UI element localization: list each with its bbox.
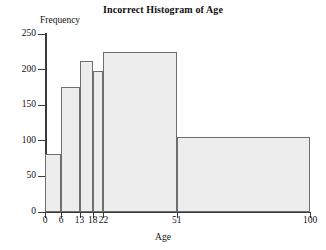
y-tick-150 <box>38 105 45 106</box>
y-tick-label-150: 150 <box>10 100 36 110</box>
y-tick-50 <box>38 176 45 177</box>
histogram-figure: Incorrect Histogram of Age Frequency 250… <box>0 0 326 250</box>
y-tick-label-0: 0 <box>10 207 36 217</box>
histogram-bar-6-13 <box>61 87 80 212</box>
y-tick-label-250: 250 <box>10 29 36 39</box>
y-tick-label-200-wrap: 200 <box>8 65 36 75</box>
y-tick-0 <box>38 212 45 213</box>
histogram-bar-18-22 <box>93 71 104 212</box>
histogram-bar-51-100 <box>177 137 310 212</box>
x-tick-label-6: 6 <box>51 215 71 225</box>
histogram-bar-0-6 <box>45 154 61 212</box>
y-tick-label-0-wrap: 0 <box>8 207 36 217</box>
y-tick-100 <box>38 140 45 141</box>
histogram-bar-13-18 <box>80 61 93 212</box>
y-tick-label-250-wrap: 250 <box>8 29 36 39</box>
y-tick-label-100: 100 <box>10 136 36 146</box>
y-tick-250 <box>38 34 45 35</box>
y-axis-title: Frequency <box>40 15 80 25</box>
x-tick-label-100: 100 <box>298 215 322 225</box>
y-tick-200 <box>38 69 45 70</box>
y-tick-label-50: 50 <box>10 171 36 181</box>
histogram-bar-22-51 <box>103 52 176 212</box>
y-tick-label-50-wrap: 50 <box>8 171 36 181</box>
y-tick-label-150-wrap: 150 <box>8 100 36 110</box>
y-tick-label-100-wrap: 100 <box>8 136 36 146</box>
y-tick-label-200: 200 <box>10 65 36 75</box>
plot-area: Frequency 250 200 150 100 50 0 <box>0 0 326 250</box>
x-axis-title: Age <box>0 232 326 242</box>
x-tick-label-51: 51 <box>167 215 187 225</box>
x-tick-label-22: 22 <box>94 215 114 225</box>
